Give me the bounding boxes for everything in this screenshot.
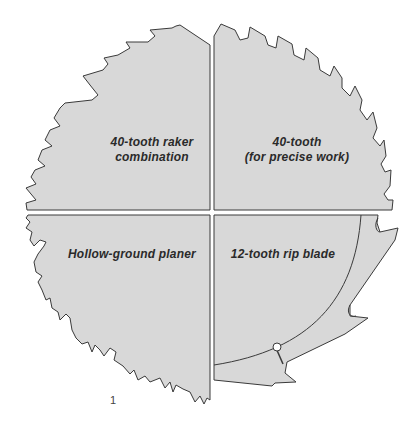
quadrant-top-right-blade [214, 24, 393, 210]
label-top-left-line1: 40-tooth raker [92, 135, 212, 150]
label-bottom-left-line1: Hollow-ground planer [62, 247, 202, 262]
label-bottom-right: 12-tooth rip blade [228, 247, 338, 262]
saw-blade-quadrants [0, 0, 417, 425]
label-bottom-left: Hollow-ground planer [62, 247, 202, 262]
label-top-right-line1: 40-tooth [232, 135, 362, 150]
quadrant-bottom-right-blade [214, 215, 398, 386]
quadrant-top-left-blade [26, 25, 210, 210]
figure-number: 1 [110, 394, 116, 406]
saw-blade-diagram: 40-tooth raker combination 40-tooth (for… [0, 0, 417, 425]
expansion-slot-hole [273, 343, 281, 351]
label-top-right: 40-tooth (for precise work) [232, 135, 362, 165]
quadrant-bottom-left-blade [26, 215, 210, 404]
label-top-left-line2: combination [92, 150, 212, 165]
label-top-right-line2: (for precise work) [232, 150, 362, 165]
label-bottom-right-line1: 12-tooth rip blade [228, 247, 338, 262]
label-top-left: 40-tooth raker combination [92, 135, 212, 165]
